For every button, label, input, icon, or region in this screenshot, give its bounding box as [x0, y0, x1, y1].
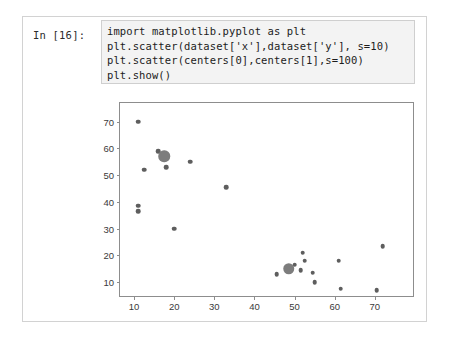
y-axis-tick-label: 70	[103, 116, 114, 127]
y-axis-tick-label: 40	[103, 196, 114, 207]
y-axis-tick-label: 50	[103, 170, 114, 181]
x-axis-tick-label: 20	[169, 301, 180, 312]
input-prompt-label: In [16]:	[33, 29, 85, 41]
x-axis-tick	[214, 296, 215, 300]
scatter-point	[298, 268, 303, 273]
scatter-point	[274, 272, 279, 277]
x-axis-tick-label: 30	[209, 301, 220, 312]
code-line: plt.scatter(dataset['x'],dataset['y'], s…	[102, 39, 414, 54]
code-line: import matplotlib.pyplot as plt	[102, 21, 414, 39]
y-axis-tick-label: 30	[103, 223, 114, 234]
y-axis-tick-label: 10	[103, 276, 114, 287]
x-axis-tick-label: 70	[370, 301, 381, 312]
x-axis-tick	[375, 296, 376, 300]
scatter-point	[338, 286, 343, 291]
x-axis-tick	[335, 296, 336, 300]
code-line: plt.show()	[102, 68, 414, 83]
scatter-point	[375, 288, 380, 293]
scatter-point	[142, 167, 147, 172]
code-line: plt.scatter(centers[0],centers[1],s=100)	[102, 53, 414, 68]
y-axis-tick	[117, 175, 121, 176]
x-axis-tick	[254, 296, 255, 300]
x-axis-tick-label: 60	[329, 301, 340, 312]
scatter-point	[136, 119, 141, 124]
x-axis-tick-label: 50	[289, 301, 300, 312]
scatter-point	[302, 258, 307, 263]
scatter-point	[336, 258, 341, 263]
notebook-output-figure: 1020304050607010203040506070	[23, 87, 426, 321]
y-axis-tick	[117, 255, 121, 256]
x-axis-tick-label: 40	[249, 301, 260, 312]
scatter-point	[224, 185, 229, 190]
notebook-input-row: In [16]: import matplotlib.pyplot as plt…	[23, 17, 426, 87]
y-axis-tick-label: 20	[103, 250, 114, 261]
scatter-point	[188, 159, 193, 164]
scatter-point	[312, 280, 317, 285]
x-axis-tick	[134, 296, 135, 300]
scatter-point	[136, 204, 141, 209]
scatter-point	[310, 270, 315, 275]
notebook-cell: In [16]: import matplotlib.pyplot as plt…	[22, 16, 427, 322]
y-axis-tick	[117, 282, 121, 283]
plot-data-area: 1020304050607010203040506070	[120, 103, 413, 296]
x-axis-tick	[295, 296, 296, 300]
scatter-point	[300, 250, 305, 255]
scatter-point	[381, 244, 386, 249]
code-editor[interactable]: import matplotlib.pyplot as plt plt.scat…	[101, 20, 415, 84]
y-axis-tick-label: 60	[103, 143, 114, 154]
y-axis-tick	[117, 122, 121, 123]
x-axis-tick-label: 10	[129, 301, 140, 312]
x-axis-tick	[174, 296, 175, 300]
scatter-point	[172, 226, 177, 231]
centroid-marker	[283, 263, 295, 275]
scatter-point	[164, 165, 169, 170]
screenshot-root: In [16]: import matplotlib.pyplot as plt…	[0, 0, 451, 342]
centroid-marker	[158, 151, 170, 163]
y-axis-tick	[117, 202, 121, 203]
y-axis-tick	[117, 229, 121, 230]
scatter-point	[136, 209, 141, 214]
y-axis-tick	[117, 148, 121, 149]
scatter-plot-axes: 1020304050607010203040506070	[119, 102, 414, 297]
